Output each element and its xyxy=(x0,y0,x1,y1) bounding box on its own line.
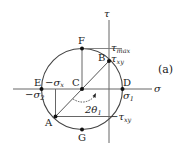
neg-tau-xy-label: −τxy xyxy=(110,111,132,124)
label-e: E xyxy=(34,77,41,88)
tau-axis-label: τ xyxy=(104,8,110,19)
label-f: F xyxy=(78,35,85,46)
mohr-circle-diagram: τ σ F B C D E A G τmax τxy −τxy −σx −σ2 xyxy=(0,0,185,155)
angle-label: 2θ1 xyxy=(84,104,102,117)
sigma-1-label: σ1 xyxy=(123,90,134,103)
neg-sigma-x-label: −σx xyxy=(45,77,64,89)
point-g xyxy=(80,128,84,132)
label-a: A xyxy=(44,117,53,128)
label-c: C xyxy=(72,77,80,88)
panel-label: (a) xyxy=(158,63,173,76)
label-d: D xyxy=(123,77,131,88)
point-f xyxy=(80,47,84,51)
arrow-head-icon xyxy=(93,93,97,98)
point-c xyxy=(80,87,84,91)
sigma-axis-label: σ xyxy=(154,83,162,94)
point-a xyxy=(54,115,58,119)
label-b: B xyxy=(98,52,105,63)
angle-arc xyxy=(73,97,94,102)
label-g: G xyxy=(78,132,86,143)
